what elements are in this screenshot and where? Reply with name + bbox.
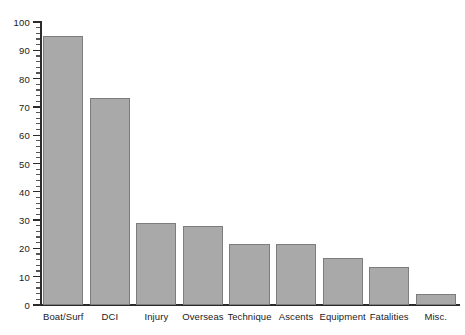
bar[interactable]: [276, 244, 316, 305]
bar[interactable]: [183, 226, 223, 305]
x-axis-category-label: Injury: [144, 311, 168, 322]
y-tick-minor: [36, 129, 40, 130]
y-tick-minor: [36, 214, 40, 215]
y-tick-minor: [36, 180, 40, 181]
y-tick-major: [33, 106, 40, 107]
y-tick-label: 0: [25, 300, 30, 311]
y-tick-minor: [36, 101, 40, 102]
x-axis-category-label: Boat/Surf: [43, 311, 84, 322]
y-tick-minor: [36, 123, 40, 124]
y-tick-minor: [36, 282, 40, 283]
y-tick-minor: [36, 174, 40, 175]
y-tick-minor: [36, 293, 40, 294]
y-tick-minor: [36, 236, 40, 237]
y-tick-major: [33, 219, 40, 220]
y-tick-label: 10: [19, 271, 30, 282]
x-axis-category-label: Fatalities: [370, 311, 409, 322]
y-tick-major: [33, 163, 40, 164]
bar[interactable]: [323, 258, 363, 305]
y-tick-minor: [36, 112, 40, 113]
y-tick-minor: [36, 157, 40, 158]
plot-area: [41, 22, 460, 305]
y-tick-minor: [36, 152, 40, 153]
x-axis-category-label: Ascents: [279, 311, 314, 322]
y-tick-minor: [36, 231, 40, 232]
y-tick-minor: [36, 225, 40, 226]
y-tick-minor: [36, 72, 40, 73]
bar[interactable]: [229, 244, 269, 305]
y-tick-minor: [36, 67, 40, 68]
y-tick-minor: [36, 27, 40, 28]
y-tick-minor: [36, 265, 40, 266]
bar[interactable]: [43, 36, 83, 305]
bar[interactable]: [369, 267, 409, 305]
y-tick-minor: [36, 89, 40, 90]
y-axis-ticks: 0102030405060708090100: [0, 0, 40, 335]
y-tick-label: 80: [19, 73, 30, 84]
y-tick-minor: [36, 84, 40, 85]
y-tick-minor: [36, 61, 40, 62]
y-tick-label: 20: [19, 243, 30, 254]
y-tick-major: [33, 248, 40, 249]
y-tick-label: 60: [19, 130, 30, 141]
y-tick-minor: [36, 140, 40, 141]
y-tick-minor: [36, 44, 40, 45]
y-tick-minor: [36, 197, 40, 198]
y-tick-major: [33, 135, 40, 136]
y-tick-minor: [36, 242, 40, 243]
y-tick-minor: [36, 55, 40, 56]
y-tick-label: 100: [14, 17, 30, 28]
y-tick-major: [33, 191, 40, 192]
y-tick-minor: [36, 208, 40, 209]
y-tick-minor: [36, 95, 40, 96]
x-axis-category-label: Overseas: [182, 311, 223, 322]
y-tick-minor: [36, 270, 40, 271]
bar-chart: 0102030405060708090100 Boat/SurfDCIInjur…: [0, 0, 465, 335]
y-tick-minor: [36, 146, 40, 147]
bar[interactable]: [90, 98, 130, 305]
y-tick-minor: [36, 38, 40, 39]
x-axis-category-label: DCI: [101, 311, 118, 322]
x-axis-category-label: Misc.: [424, 311, 447, 322]
y-tick-major: [33, 50, 40, 51]
y-tick-minor: [36, 33, 40, 34]
y-tick-major: [33, 78, 40, 79]
y-tick-label: 70: [19, 101, 30, 112]
y-tick-minor: [36, 253, 40, 254]
y-tick-minor: [36, 287, 40, 288]
y-tick-label: 50: [19, 158, 30, 169]
bar[interactable]: [136, 223, 176, 305]
y-tick-major: [33, 21, 40, 22]
y-tick-label: 90: [19, 45, 30, 56]
bar[interactable]: [416, 294, 456, 305]
y-tick-major: [33, 304, 40, 305]
y-tick-minor: [36, 299, 40, 300]
x-axis-category-label: Equipment: [319, 311, 365, 322]
y-tick-minor: [36, 203, 40, 204]
x-axis-category-label: Technique: [227, 311, 271, 322]
y-tick-label: 30: [19, 215, 30, 226]
y-tick-minor: [36, 169, 40, 170]
y-tick-minor: [36, 259, 40, 260]
y-tick-major: [33, 276, 40, 277]
y-tick-label: 40: [19, 186, 30, 197]
y-tick-minor: [36, 186, 40, 187]
y-tick-minor: [36, 118, 40, 119]
